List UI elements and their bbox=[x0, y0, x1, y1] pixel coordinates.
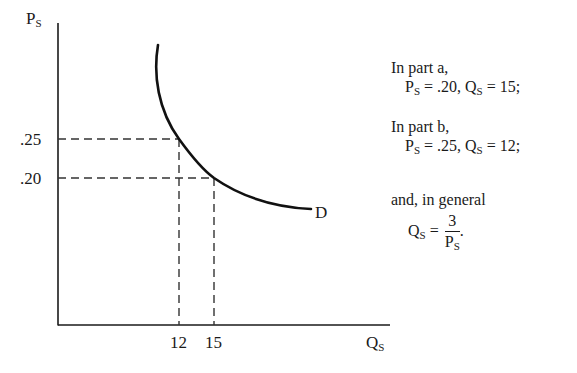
y-axis-label: PS bbox=[26, 10, 42, 29]
part-a-heading: In part a, bbox=[391, 59, 448, 77]
part-a-values: PS = .20, QS = 15; bbox=[405, 78, 520, 98]
demand-curve-label: D bbox=[315, 204, 327, 221]
general-heading: and, in general bbox=[391, 191, 486, 209]
x-tick-15: 15 bbox=[205, 334, 222, 351]
y-tick-025: .25 bbox=[20, 131, 41, 148]
part-b-values: PS = .25, QS = 12; bbox=[405, 137, 520, 157]
y-tick-020: .20 bbox=[20, 170, 41, 187]
general-equation: QS =3PS. bbox=[408, 212, 464, 253]
x-tick-12: 12 bbox=[170, 334, 187, 351]
equation-fraction: 3PS bbox=[445, 212, 460, 253]
part-b-heading: In part b, bbox=[391, 118, 449, 136]
demand-chart bbox=[0, 0, 577, 373]
x-axis-label: QS bbox=[366, 334, 384, 353]
